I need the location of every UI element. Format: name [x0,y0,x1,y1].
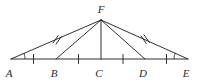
segment-FD [101,20,145,59]
vertex-label-D: D [138,67,147,79]
segment-FB [56,20,101,59]
tick-mark-FE [141,35,149,44]
vertex-label-C: C [95,67,103,79]
angle-arc-A [24,53,25,59]
angle-arc-E [174,53,175,59]
geometry-canvas: A B C D E F [0,0,197,82]
vertex-label-F: F [97,3,105,15]
vertex-label-E: E [182,67,190,79]
geometry-figure: A B C D E F [0,0,197,82]
vertex-label-A: A [5,67,13,79]
vertex-label-B: B [51,67,58,79]
